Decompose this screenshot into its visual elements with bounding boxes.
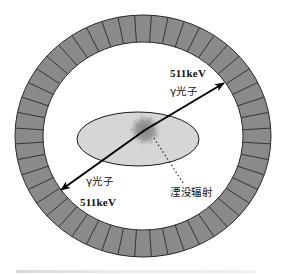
bottom-photon-label: γ光子 <box>86 176 113 187</box>
top-photon-label: γ光子 <box>170 86 197 97</box>
pet-ring-diagram <box>0 0 286 274</box>
annihilation-radiation-label: 湮没辐射 <box>170 187 212 198</box>
figure-caption-cutoff <box>16 270 256 273</box>
bottom-energy-label: 511keV <box>80 197 116 208</box>
top-energy-label: 511keV <box>170 68 206 79</box>
